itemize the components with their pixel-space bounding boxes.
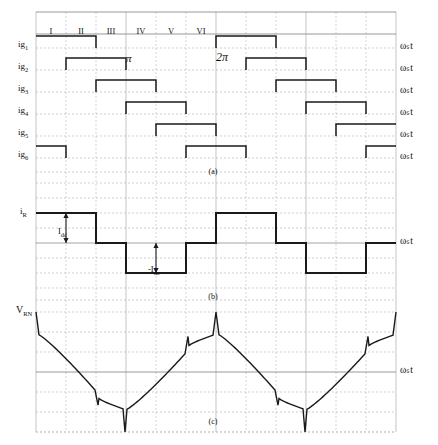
gate-axis-label-5: ωₛt xyxy=(400,128,413,139)
current-axis-label: ωₛt xyxy=(400,235,413,246)
gate-signal-label-3: ig3 xyxy=(18,83,28,95)
gate-axis-label-6: ωₛt xyxy=(400,150,413,161)
interval-label-IV: IV xyxy=(133,26,149,36)
panel-caption-b: (b) xyxy=(203,292,223,301)
voltage-axis-label: ωₛt xyxy=(400,364,413,375)
interval-label-VI: VI xyxy=(193,26,209,36)
gate-axis-label-2: ωₛt xyxy=(400,62,413,73)
interval-label-III: III xyxy=(103,26,119,36)
gate-pulse-6 xyxy=(366,146,396,158)
gate-axis-label-3: ωₛt xyxy=(400,84,413,95)
gate-signal-label-2: ig2 xyxy=(18,61,28,73)
idc-positive-arrow-head-down xyxy=(63,238,68,243)
marker-two-pi: 2π xyxy=(216,50,228,65)
panel-caption-a: (a) xyxy=(203,167,223,176)
gate-pulse-6 xyxy=(36,146,66,158)
gate-signal-label-1: ig1 xyxy=(18,39,28,51)
gate-axis-label-1: ωₛt xyxy=(400,40,413,51)
waveform-figure xyxy=(0,0,438,445)
idc-positive-label: Idc xyxy=(58,226,67,238)
gate-axis-label-4: ωₛt xyxy=(400,106,413,117)
voltage-label: VRN xyxy=(16,304,32,317)
marker-pi: π xyxy=(126,52,132,64)
idc-negative-arrow-head-up xyxy=(153,243,158,248)
interval-label-I: I xyxy=(43,26,59,36)
gate-signal-label-5: ig5 xyxy=(18,127,28,139)
gate-signal-label-4: ig4 xyxy=(18,105,28,117)
panel-caption-c: (c) xyxy=(203,417,223,426)
current-label: iR xyxy=(20,206,27,218)
gate-signal-label-6: ig6 xyxy=(18,149,28,161)
idc-negative-label: -Idc xyxy=(148,264,160,276)
interval-label-V: V xyxy=(163,26,179,36)
interval-label-II: II xyxy=(73,26,89,36)
